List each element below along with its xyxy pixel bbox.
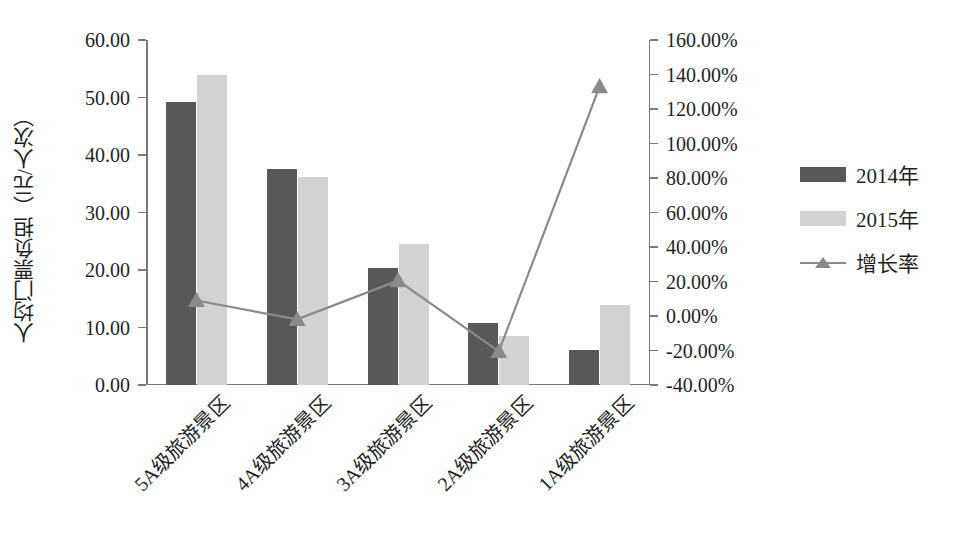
y-axis-right-tick-label: 40.00% (650, 237, 728, 257)
y-axis-right-tick-label: 120.00% (650, 99, 738, 119)
y-axis-left-tick-label: 30.00 (85, 203, 146, 223)
y-axis-right-tick-label: 80.00% (650, 168, 728, 188)
y-axis-left-tick-label: 10.00 (85, 318, 146, 338)
y-axis-right-tick-label: -20.00% (650, 341, 734, 361)
x-axis-tick-label: 1A级旅游景区 (530, 388, 639, 497)
growth-rate-marker-5A级旅游景区 (188, 292, 205, 307)
growth-rate-marker-3A级旅游景区 (390, 272, 407, 287)
y-axis-right-tick-label: 0.00% (650, 306, 718, 326)
legend-label-2014: 2014年 (856, 159, 919, 189)
y-axis-right-tick-label: 20.00% (650, 272, 728, 292)
y-axis-left-tick-label: 50.00 (85, 88, 146, 108)
growth-rate-line-series (146, 40, 650, 385)
x-axis-labels: 5A级旅游景区4A级旅游景区3A级旅游景区2A级旅游景区1A级旅游景区 (146, 388, 650, 538)
legend-item-2014[interactable]: 2014年 (800, 152, 950, 196)
y-axis-left-tick-label: 20.00 (85, 260, 146, 280)
legend-swatch-2015 (800, 211, 846, 226)
y-axis-right-tick-label: 140.00% (650, 65, 738, 85)
plot-area: 0.0010.0020.0030.0040.0050.0060.00 -40.0… (146, 40, 650, 385)
legend-label-growth-rate: 增长率 (856, 247, 919, 277)
y-axis-right-tick-label: 100.00% (650, 134, 738, 154)
y-axis-right-tick-label: -40.00% (650, 375, 734, 395)
x-axis-tick-label: 4A级旅游景区 (228, 388, 337, 497)
x-axis-tick-label: 5A级旅游景区 (127, 388, 236, 497)
chart-container: 人均门票负担（元/人次） 0.0010.0020.0030.0040.0050.… (0, 0, 955, 546)
x-axis-tick-label: 2A级旅游景区 (429, 388, 538, 497)
legend-item-2015[interactable]: 2015年 (800, 196, 950, 240)
chart-legend: 2014年 2015年 增长率 (800, 152, 950, 284)
y-axis-left-tick-label: 40.00 (85, 145, 146, 165)
legend-label-2015: 2015年 (856, 203, 919, 233)
x-axis-tick-label: 3A级旅游景区 (328, 388, 437, 497)
legend-item-growth-rate[interactable]: 增长率 (800, 240, 950, 284)
y-axis-left-tick-label: 0.00 (95, 375, 146, 395)
y-axis-left-tick-label: 60.00 (85, 30, 146, 50)
growth-rate-marker-1A级旅游景区 (591, 78, 608, 93)
y-axis-right-tick-label: 60.00% (650, 203, 728, 223)
y-axis-title-left: 人均门票负担（元/人次） (14, 60, 50, 390)
legend-marker-growth-rate (800, 255, 846, 270)
y-axis-right-tick-label: 160.00% (650, 30, 738, 50)
legend-swatch-2014 (800, 167, 846, 182)
growth-rate-marker-2A级旅游景区 (490, 343, 507, 358)
growth-rate-polyline (196, 87, 599, 352)
